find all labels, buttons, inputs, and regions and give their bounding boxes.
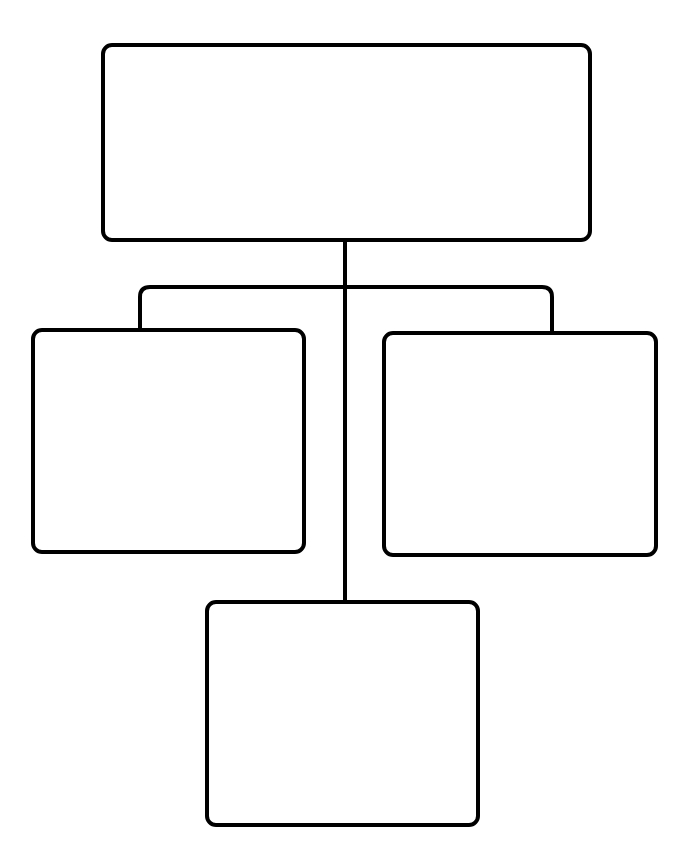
right-node-box bbox=[382, 331, 658, 557]
left-node-box bbox=[31, 328, 306, 554]
bottom-node-box bbox=[205, 600, 480, 827]
hierarchy-diagram bbox=[0, 0, 686, 868]
top-node-box bbox=[101, 43, 592, 242]
